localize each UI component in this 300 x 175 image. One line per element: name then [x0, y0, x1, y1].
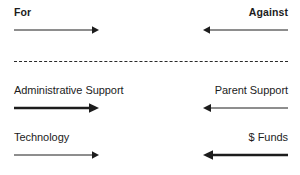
force-label-funds: $ Funds [156, 131, 288, 144]
force-row-support: Administrative Support Parent Support [0, 84, 300, 124]
force-label-parent-support: Parent Support [156, 84, 288, 97]
force-label-administrative-support: Administrative Support [14, 84, 146, 97]
force-row-header: For Against [0, 6, 300, 46]
restraining-force-parent-support: Parent Support [156, 84, 288, 124]
driving-force-technology: Technology [14, 131, 146, 171]
force-row-resources: Technology $ Funds [0, 131, 300, 171]
force-label-against: Against [156, 6, 288, 19]
arrow-right-thin-technology [14, 149, 146, 163]
restraining-forces-column-header: Against [156, 6, 288, 46]
force-label-technology: Technology [14, 131, 146, 144]
driving-forces-column-header: For [14, 6, 146, 46]
force-field-diagram: For Against Administrative Support [0, 0, 300, 175]
arrow-left-thin-against [156, 24, 288, 38]
dashed-divider [14, 61, 288, 62]
driving-force-administrative-support: Administrative Support [14, 84, 146, 124]
arrow-right-thin-for [14, 24, 146, 38]
force-label-for: For [14, 6, 146, 19]
arrow-left-thick-funds [156, 149, 288, 163]
arrow-right-thick-administrative-support [14, 102, 146, 116]
arrow-left-thin-parent-support [156, 102, 288, 116]
restraining-force-funds: $ Funds [156, 131, 288, 171]
